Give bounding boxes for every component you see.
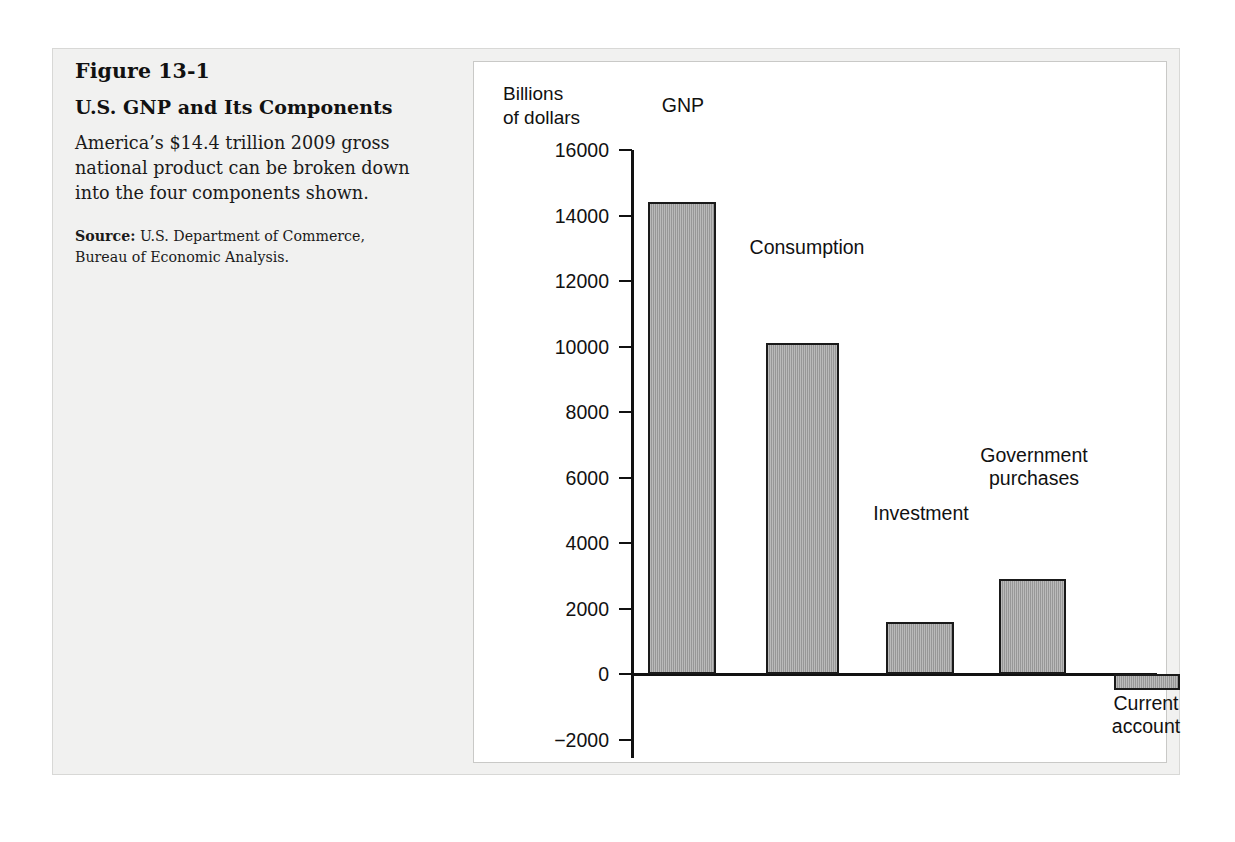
y-axis-title: Billions of dollars [503, 82, 580, 130]
figure-panel: Figure 13-1 U.S. GNP and Its Components … [52, 48, 1180, 775]
figure-source: Source: U.S. Department of Commerce, Bur… [75, 226, 415, 266]
y-tick-mark [619, 608, 632, 610]
bar-investment [886, 622, 954, 674]
chart-plot-area: Billions of dollars 16000140001200010000… [474, 62, 1166, 762]
y-tick-label: 14000 [517, 204, 609, 227]
y-tick-label: 4000 [517, 532, 609, 555]
y-tick-label: −2000 [517, 728, 609, 751]
y-tick-label: 16000 [517, 139, 609, 162]
bar-label-gnp: GNP [644, 94, 722, 117]
bar-gnp [648, 202, 716, 674]
y-tick-mark [619, 346, 632, 348]
bar-label-consumption: Consumption [742, 236, 872, 259]
y-tick-mark [619, 215, 632, 217]
y-tick-mark [619, 149, 632, 151]
bar-label-current-account: Current account [1086, 692, 1206, 739]
bar-current-account [1114, 674, 1180, 690]
source-label: Source: [75, 228, 135, 244]
y-tick-mark [619, 542, 632, 544]
figure-title: U.S. GNP and Its Components [75, 96, 455, 118]
bar-label-government-purchases: Government purchases [969, 444, 1099, 491]
y-tick-mark [619, 411, 632, 413]
y-tick-label: 0 [517, 663, 609, 686]
bar-consumption [766, 343, 839, 674]
figure-description: America’s $14.4 trillion 2009 gross nati… [75, 131, 427, 206]
y-tick-label: 10000 [517, 335, 609, 358]
y-tick-mark [619, 280, 632, 282]
figure-page: Figure 13-1 U.S. GNP and Its Components … [0, 0, 1235, 842]
y-tick-mark [619, 739, 632, 741]
y-axis-line [631, 150, 634, 758]
y-tick-label: 8000 [517, 401, 609, 424]
y-tick-label: 6000 [517, 466, 609, 489]
bar-label-investment: Investment [858, 502, 984, 525]
figure-caption-column: Figure 13-1 U.S. GNP and Its Components … [75, 59, 455, 267]
figure-number: Figure 13-1 [75, 59, 455, 83]
y-tick-mark [619, 673, 632, 675]
y-tick-label: 12000 [517, 270, 609, 293]
y-tick-mark [619, 477, 632, 479]
bar-government-purchases [999, 579, 1066, 674]
chart-panel: Billions of dollars 16000140001200010000… [473, 61, 1167, 763]
y-tick-label: 2000 [517, 597, 609, 620]
